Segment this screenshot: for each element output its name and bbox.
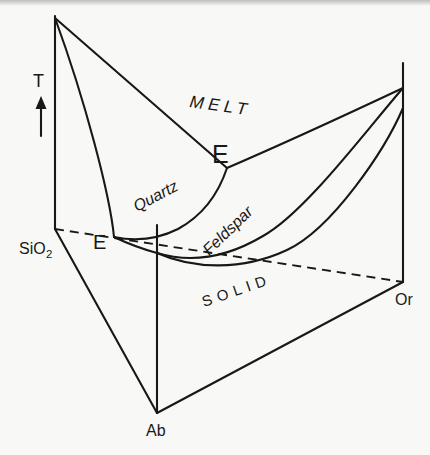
phase-diagram-figure: T MELT Quartz Feldspar SOLID E E SiO 2 A… <box>0 0 430 455</box>
silica-corner-subscript: 2 <box>46 248 52 260</box>
temperature-axis-label: T <box>33 71 44 91</box>
eutectic-back-label: E <box>212 140 229 168</box>
base-edge-ab-or <box>157 282 403 413</box>
eutectic-front-label: E <box>93 231 106 253</box>
solid-region-label: SOLID <box>199 270 273 310</box>
melt-region-label: MELT <box>188 92 252 119</box>
diagram-canvas: T MELT Quartz Feldspar SOLID E E SiO 2 A… <box>0 0 430 455</box>
feldspar-field-label: Feldspar <box>199 202 256 258</box>
silica-corner-label: SiO <box>19 240 46 257</box>
albite-corner-label: Ab <box>146 422 166 439</box>
quartz-field-label: Quartz <box>130 177 180 215</box>
temperature-arrowhead-icon <box>36 96 47 109</box>
sio2-ab-liquidus-curve <box>55 18 114 237</box>
base-edge-sio2-ab <box>55 229 157 413</box>
orthoclase-corner-label: Or <box>395 291 413 308</box>
